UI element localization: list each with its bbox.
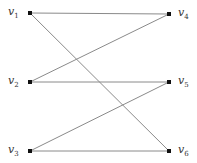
vertex-label-v1: v1 [8,5,19,20]
edge-v2-v4 [30,14,169,82]
edges [30,13,169,151]
vertex-v5 [167,80,171,84]
vertex-v1 [28,11,32,15]
vertex-v6 [167,149,171,153]
vertex-label-v4: v4 [178,6,189,21]
vertex-label-v6: v6 [178,143,189,158]
vertex-label-v5: v5 [178,74,189,89]
vertex-label-v3: v3 [8,143,19,158]
edge-v1-v4 [30,13,169,14]
vertex-v2 [28,80,32,84]
edge-v3-v5 [30,82,169,151]
bipartite-graph: v1v2v3v4v5v6 [0,0,197,163]
vertex-v4 [167,12,171,16]
vertex-v3 [28,149,32,153]
vertex-label-v2: v2 [8,74,19,89]
